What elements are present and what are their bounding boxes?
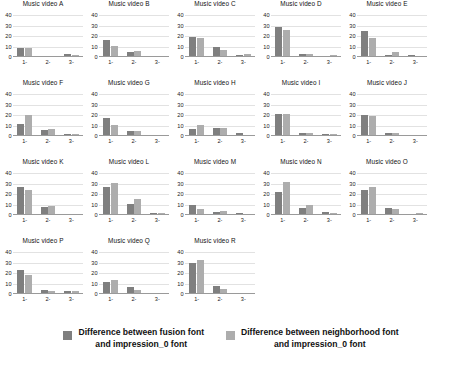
- x-axis-tick-label: 1-: [103, 217, 118, 223]
- panel-title: Music video O: [344, 158, 430, 167]
- plot-area: 0102030401-2-3-: [357, 88, 427, 150]
- panel-title: Music video L: [86, 158, 172, 167]
- y-axis-tick-label: 40: [91, 91, 99, 97]
- bar: [330, 55, 337, 56]
- x-axis-tick-label: 3-: [236, 59, 251, 65]
- y-axis-tick-label: 20: [263, 112, 271, 118]
- bar-group: [17, 169, 32, 214]
- y-axis-tick-label: 10: [5, 44, 13, 50]
- x-axis-tick-label: 2-: [126, 217, 141, 223]
- bar: [17, 270, 24, 293]
- bar-group: [408, 11, 423, 56]
- bar: [41, 290, 48, 293]
- bar-group: [103, 169, 118, 214]
- bar-group: [127, 169, 142, 214]
- x-axis-tick-labels: 1-2-3-: [13, 59, 83, 65]
- x-axis-line: [13, 56, 83, 57]
- y-axis-tick-label: 10: [349, 202, 357, 208]
- y-axis-tick-label: 30: [263, 102, 271, 108]
- bar: [220, 50, 227, 56]
- panel-title: Music video I: [258, 79, 344, 88]
- bar: [385, 208, 392, 214]
- bar-group: [64, 11, 79, 56]
- x-axis-tick-label: 2-: [212, 217, 227, 223]
- axis-area: 010203040: [99, 11, 169, 57]
- x-axis-tick-labels: 1-2-3-: [185, 296, 255, 302]
- panel-title: Music video R: [172, 237, 258, 246]
- panel-title: Music video M: [172, 158, 258, 167]
- x-axis-line: [357, 56, 427, 57]
- bar-group: [275, 11, 290, 56]
- bar: [134, 199, 141, 214]
- plot-area: 0102030401-2-3-: [99, 167, 169, 229]
- y-axis-tick-label: 20: [177, 191, 185, 197]
- bar-group: [41, 11, 56, 56]
- legend-swatch: [226, 331, 235, 340]
- axis-area: 010203040: [185, 169, 255, 215]
- x-axis-tick-labels: 1-2-3-: [99, 138, 169, 144]
- axis-area: 010203040: [185, 248, 255, 294]
- x-axis-tick-label: 3-: [64, 59, 79, 65]
- y-axis-tick-label: 40: [263, 91, 271, 97]
- bar: [213, 286, 220, 293]
- bar: [369, 116, 376, 135]
- x-axis-tick-label: 2-: [212, 138, 227, 144]
- bar: [275, 27, 282, 56]
- legend-swatch: [63, 331, 72, 340]
- x-axis-tick-labels: 1-2-3-: [357, 138, 427, 144]
- x-axis-tick-labels: 1-2-3-: [271, 138, 341, 144]
- y-axis-tick-label: 10: [177, 202, 185, 208]
- x-axis-tick-labels: 1-2-3-: [185, 217, 255, 223]
- x-axis-tick-label: 1-: [17, 296, 32, 302]
- small-multiples-grid: Music video A0102030401-2-3-Music video …: [0, 0, 462, 316]
- x-axis-tick-label: 2-: [40, 296, 55, 302]
- panel-title: Music video P: [0, 237, 86, 246]
- y-axis-tick-label: 20: [91, 270, 99, 276]
- legend-item: Difference between neighborhood font and…: [226, 326, 399, 350]
- x-axis-tick-label: 2-: [40, 217, 55, 223]
- bar-group: [385, 90, 400, 135]
- plot-area: 0102030401-2-3-: [13, 88, 83, 150]
- bars-container: [185, 11, 255, 56]
- x-axis-tick-label: 1-: [103, 296, 118, 302]
- x-axis-tick-label: 1-: [103, 138, 118, 144]
- x-axis-tick-label: 3-: [150, 217, 165, 223]
- panel-title: Music video N: [258, 158, 344, 167]
- bar: [64, 291, 71, 293]
- bar: [48, 129, 55, 135]
- bar: [283, 182, 290, 214]
- bar-group: [64, 169, 79, 214]
- bar-group: [213, 248, 228, 293]
- bar: [103, 40, 110, 56]
- chart-panel: Music video C0102030401-2-3-: [172, 0, 258, 79]
- bar: [41, 207, 48, 214]
- bar: [385, 133, 392, 135]
- y-axis-tick-label: 30: [5, 260, 13, 266]
- bar: [236, 133, 243, 135]
- bar: [17, 124, 24, 136]
- bar: [213, 128, 220, 135]
- bar: [127, 287, 134, 293]
- bar: [111, 125, 118, 135]
- bar: [283, 114, 290, 135]
- bar-group: [275, 169, 290, 214]
- x-axis-tick-label: 1-: [275, 217, 290, 223]
- x-axis-tick-labels: 1-2-3-: [99, 59, 169, 65]
- y-axis-tick-label: 40: [5, 249, 13, 255]
- bars-container: [99, 248, 169, 293]
- y-axis-tick-label: 20: [349, 33, 357, 39]
- bar: [72, 55, 79, 56]
- y-axis-tick-label: 40: [91, 249, 99, 255]
- chart-panel: Music video A0102030401-2-3-: [0, 0, 86, 79]
- bar-group: [322, 169, 337, 214]
- axis-area: 010203040: [357, 169, 427, 215]
- y-axis-tick-label: 30: [91, 23, 99, 29]
- bar-group: [150, 90, 165, 135]
- y-axis-tick-label: 20: [91, 191, 99, 197]
- chart-panel: Music video O0102030401-2-3-: [344, 158, 430, 237]
- bar-group: [17, 248, 32, 293]
- plot-area: 0102030401-2-3-: [99, 9, 169, 71]
- x-axis-tick-label: 1-: [361, 59, 376, 65]
- legend-item: Difference between fusion font and impre…: [63, 326, 204, 350]
- y-axis-tick-label: 40: [177, 170, 185, 176]
